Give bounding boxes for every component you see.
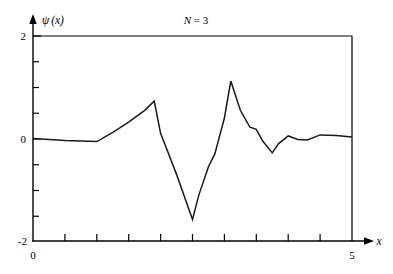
figure-container: 2 0 -2 0 5 x ψ(x) N = 3 (0, 0, 393, 274)
plot-title-value: = 3 (191, 14, 209, 26)
x-axis-label: x (375, 235, 382, 247)
x-axis-arrow-icon (364, 237, 374, 244)
y-tick-label-zero: 0 (21, 133, 27, 145)
x-tick-label-end: 5 (349, 249, 355, 261)
plot-frame-top-right (33, 36, 352, 241)
x-minor-ticks (65, 234, 320, 241)
y-tick-label-bottom: -2 (18, 235, 27, 247)
y-axis-arrow-icon (29, 14, 36, 24)
y-axis-label: ψ(x) (42, 14, 64, 27)
x-tick-label-start: 0 (30, 249, 36, 261)
y-tick-label-top: 2 (21, 30, 27, 42)
y-axis-label-symbol: ψ (42, 14, 50, 27)
wavelet-curve (33, 81, 352, 219)
plot-title: N = 3 (183, 14, 209, 26)
chart-svg: 2 0 -2 0 5 x ψ(x) N = 3 (0, 0, 393, 274)
y-axis-label-argument: (x) (51, 14, 64, 27)
